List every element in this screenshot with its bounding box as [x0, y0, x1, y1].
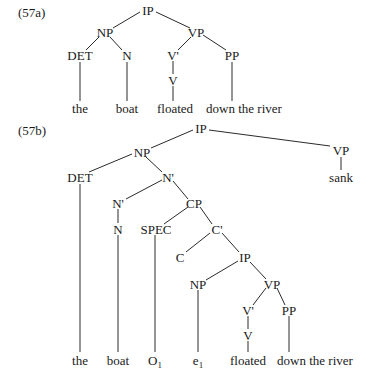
- tree-node-a-down: down the river: [206, 102, 282, 115]
- tree-edges: [0, 0, 368, 376]
- tree-node-b-vbar: V': [242, 304, 254, 317]
- node-text: IP: [239, 250, 251, 265]
- tree-node-b-floated: floated: [230, 354, 266, 367]
- tree-node-b-down: down the river: [277, 354, 353, 367]
- tree-node-b-np2: NP: [190, 278, 207, 291]
- node-text: C: [176, 250, 185, 265]
- tree-node-b-cp: CP: [186, 197, 202, 210]
- node-text: sank: [329, 170, 353, 185]
- node-text: down the river: [206, 101, 282, 116]
- node-text: N: [113, 222, 122, 237]
- tree-node-b-nbar2: N': [112, 197, 124, 210]
- tree-node-b-nbar1: N': [162, 171, 174, 184]
- node-text: N': [112, 196, 124, 211]
- tree-node-b-spec: SPEC: [140, 223, 171, 236]
- tree-node-a-the: the: [72, 102, 88, 115]
- example-label-57b: (57b): [18, 124, 46, 137]
- tree-node-b-boat: boat: [107, 354, 129, 367]
- tree-node-b-v: V: [243, 329, 252, 342]
- node-text: floated: [230, 353, 266, 368]
- tree-branch: [126, 180, 162, 199]
- node-text: floated: [157, 101, 193, 116]
- tree-node-a-floated: floated: [157, 102, 193, 115]
- node-text: down the river: [277, 353, 353, 368]
- node-text: NP: [134, 145, 151, 160]
- node-text: NP: [190, 277, 207, 292]
- node-text: boat: [116, 101, 138, 116]
- tree-node-a-vp: VP: [188, 26, 205, 39]
- node-text: VP: [333, 143, 350, 158]
- tree-node-b-det: DET: [67, 171, 92, 184]
- tree-branch: [151, 130, 193, 148]
- node-text: boat: [107, 353, 129, 368]
- tree-branch: [222, 233, 239, 252]
- node-text: SPEC: [140, 222, 171, 237]
- node-text: the: [72, 101, 88, 116]
- tree-node-b-n: N: [113, 223, 122, 236]
- tree-branch: [156, 12, 190, 28]
- tree-node-b-cbar: C': [211, 223, 222, 236]
- tree-node-b-ip: IP: [195, 122, 207, 135]
- tree-node-a-det: DET: [67, 49, 92, 62]
- tree-node-b-vp2: VP: [264, 278, 281, 291]
- node-text: VP: [188, 25, 205, 40]
- tree-node-a-ip: IP: [142, 4, 154, 17]
- tree-branch: [186, 233, 210, 252]
- example-label-57a: (57a): [18, 6, 45, 19]
- tree-node-b-vp: VP: [333, 144, 350, 157]
- node-text: PP: [282, 303, 296, 318]
- node-text: V': [167, 48, 179, 63]
- node-text: DET: [67, 48, 92, 63]
- node-text: DET: [67, 170, 92, 185]
- tree-node-a-np: NP: [97, 26, 114, 39]
- tree-node-a-boat: boat: [116, 102, 138, 115]
- node-text: V': [242, 303, 254, 318]
- tree-node-b-e1: e1: [193, 354, 203, 367]
- tree-node-b-np: NP: [134, 146, 151, 159]
- tree-node-b-the: the: [72, 354, 88, 367]
- tree-node-b-o1: O1: [148, 354, 162, 367]
- node-text: N': [162, 170, 174, 185]
- node-text: V: [243, 328, 252, 343]
- tree-node-a-pp: PP: [225, 49, 239, 62]
- node-text: VP: [264, 277, 281, 292]
- tree-branch: [89, 154, 132, 172]
- node-text: V: [168, 73, 177, 88]
- tree-node-b-c: C: [176, 251, 185, 264]
- node-text: the: [72, 353, 88, 368]
- tree-node-a-vbar: V': [167, 49, 179, 62]
- node-text: O: [148, 353, 157, 368]
- node-text: NP: [97, 25, 114, 40]
- tree-node-b-ip2: IP: [239, 251, 251, 264]
- tree-node-a-v: V: [168, 74, 177, 87]
- node-text: IP: [195, 121, 207, 136]
- node-text: C': [211, 222, 222, 237]
- node-text: PP: [225, 48, 239, 63]
- node-text: CP: [186, 196, 202, 211]
- node-subscript: 1: [157, 360, 162, 370]
- node-text: IP: [142, 3, 154, 18]
- node-subscript: 1: [199, 360, 204, 370]
- tree-node-b-sank: sank: [329, 171, 353, 184]
- tree-branch: [113, 12, 140, 28]
- tree-node-b-pp: PP: [282, 304, 296, 317]
- tree-branch: [209, 130, 330, 146]
- node-text: N: [122, 48, 131, 63]
- tree-node-a-n: N: [122, 49, 131, 62]
- tree-branch: [203, 35, 226, 50]
- tree-branch: [206, 261, 238, 280]
